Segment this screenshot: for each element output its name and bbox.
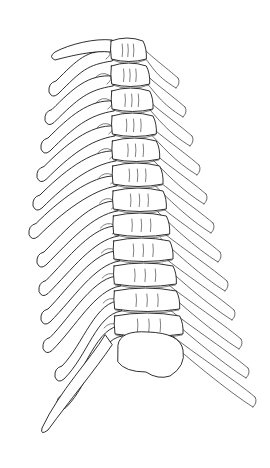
- vertebral-body-face: [118, 332, 183, 378]
- vertebra: [113, 188, 167, 214]
- spine-ribs-drawing: [0, 0, 270, 468]
- vertebral-column: [111, 38, 184, 377]
- vertebra: [114, 288, 180, 314]
- right-rib: [171, 334, 257, 407]
- vertebra: [113, 238, 173, 264]
- illustration-canvas: Thoracic spine with ribs, line drawing: [0, 0, 270, 468]
- vertebra: [113, 213, 170, 239]
- vertebra: [114, 263, 177, 289]
- vertebra: [112, 163, 163, 189]
- vertebra: [112, 138, 160, 164]
- left-ribs: [29, 40, 122, 433]
- vertebra: [111, 38, 147, 64]
- vertebra: [111, 88, 153, 114]
- right-rib: [163, 256, 235, 320]
- vertebra: [111, 63, 150, 89]
- vertebra: [112, 113, 157, 139]
